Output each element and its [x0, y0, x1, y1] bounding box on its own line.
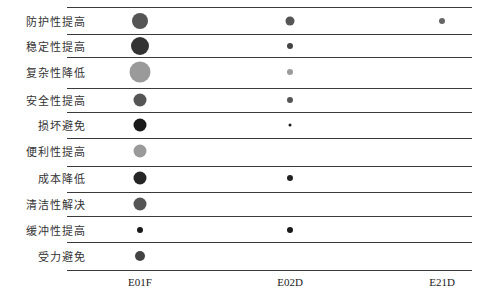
row-label: 便利性提高 — [26, 143, 86, 159]
grid-line — [67, 34, 472, 35]
grid-line — [67, 7, 472, 8]
data-point — [287, 43, 293, 49]
row-label: 缓冲性提高 — [26, 222, 86, 238]
grid-line — [67, 270, 472, 271]
data-point — [134, 119, 147, 132]
data-point — [132, 13, 148, 29]
row-label: 损坏避免 — [38, 117, 86, 133]
row-label: 复杂性降低 — [26, 64, 86, 80]
grid-line — [67, 112, 472, 113]
data-point — [289, 124, 292, 127]
column-label: E21D — [429, 276, 455, 288]
data-point — [134, 172, 147, 185]
data-point — [130, 62, 151, 83]
data-point — [137, 227, 143, 233]
row-label: 成本降低 — [38, 170, 86, 186]
grid-line — [67, 138, 472, 139]
column-label: E01F — [128, 276, 152, 288]
grid-line — [67, 192, 472, 193]
row-label: 安全性提高 — [26, 92, 86, 108]
row-label: 清洁性解决 — [26, 196, 86, 212]
grid-line — [67, 57, 472, 58]
data-point — [287, 175, 293, 181]
data-point — [439, 18, 445, 24]
data-point — [134, 94, 147, 107]
grid-line — [67, 166, 472, 167]
data-point — [287, 97, 293, 103]
row-label: 受力避免 — [38, 248, 86, 264]
column-label: E02D — [277, 276, 303, 288]
data-point — [287, 227, 293, 233]
bubble-matrix-chart: 防护性提高稳定性提高复杂性降低安全性提高损坏避免便利性提高成本降低清洁性解决缓冲… — [0, 0, 478, 296]
data-point — [134, 198, 147, 211]
grid-line — [67, 242, 472, 243]
data-point — [287, 69, 293, 75]
data-point — [135, 251, 145, 261]
row-label: 稳定性提高 — [26, 38, 86, 54]
data-point — [131, 37, 149, 55]
row-label: 防护性提高 — [26, 13, 86, 29]
data-point — [286, 17, 295, 26]
grid-line — [67, 88, 472, 89]
data-point — [134, 145, 147, 158]
grid-line — [67, 216, 472, 217]
